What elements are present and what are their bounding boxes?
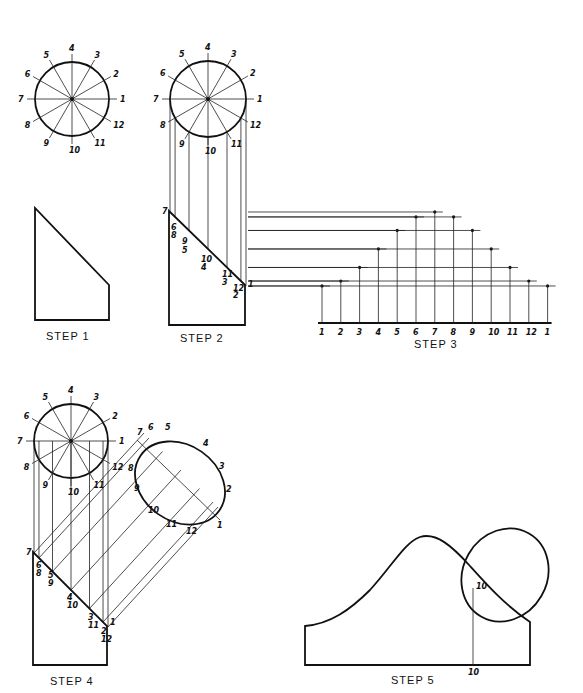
baseline-label-7: 8 xyxy=(451,328,457,337)
baseline-label-9: 10 xyxy=(488,328,500,337)
circle-label-6: 6 xyxy=(24,412,30,421)
circle-label-8: 8 xyxy=(24,463,30,472)
center-point xyxy=(206,97,210,101)
circle-label-1: 1 xyxy=(120,95,126,104)
edge-label-4: 5 xyxy=(182,246,188,255)
radial-line-5 xyxy=(185,59,208,99)
baseline-label-0: 1 xyxy=(319,328,325,337)
circle-label-11: 11 xyxy=(95,139,106,148)
circle-label-5: 5 xyxy=(179,50,185,59)
step5-base-label: 10 xyxy=(468,668,480,677)
circle-label-12: 12 xyxy=(113,121,125,130)
circle-label-10: 10 xyxy=(69,146,81,155)
center-point xyxy=(70,97,74,101)
oblique-projector-11 xyxy=(90,489,200,609)
baseline-label-2: 3 xyxy=(357,328,363,337)
radial-line-2 xyxy=(72,77,111,100)
ellipse-label-3: 4 xyxy=(202,439,209,448)
radial-line-11 xyxy=(72,99,95,138)
radial-line-3 xyxy=(72,60,95,99)
step1-group: 123456789101112 STEP 1 xyxy=(18,44,126,342)
oblique-projector-8 xyxy=(39,438,149,558)
baseline-label-3: 4 xyxy=(374,328,381,337)
radial-line-5 xyxy=(50,60,73,99)
circle-label-3: 3 xyxy=(94,393,100,402)
edge-label-0: 7 xyxy=(162,207,168,216)
radial-line-8 xyxy=(168,99,208,122)
circle-label-12: 12 xyxy=(250,121,262,130)
edge-label-8: 3 xyxy=(222,278,228,287)
edge-label-8: 11 xyxy=(88,621,99,630)
step2-label: STEP 2 xyxy=(180,332,224,344)
circle-label-6: 6 xyxy=(25,70,31,79)
radial-line-12 xyxy=(72,99,111,122)
radial-line-6 xyxy=(168,76,208,99)
radial-line-9 xyxy=(50,99,73,138)
circle-label-5: 5 xyxy=(44,51,50,60)
circle-label-10: 10 xyxy=(68,488,80,497)
step4-group: 123456789101112 765432112111098 76859410… xyxy=(17,386,241,687)
edge-label-6: 10 xyxy=(67,601,79,610)
radial-line-12 xyxy=(71,441,110,464)
edge-label-4: 9 xyxy=(48,579,54,588)
oblique-projector-12 xyxy=(103,502,213,622)
step3-group: 1234567891011121 STEP 3 xyxy=(248,210,556,350)
baseline-label-10: 11 xyxy=(507,328,518,337)
circle-label-2: 2 xyxy=(113,70,119,79)
ellipse-label-10: 9 xyxy=(134,484,140,493)
radial-line-9 xyxy=(185,99,208,139)
step3-label: STEP 3 xyxy=(414,338,458,350)
baseline-label-8: 9 xyxy=(469,328,475,337)
circle-label-4: 4 xyxy=(67,386,74,395)
step5-point-label: 10 xyxy=(476,582,488,591)
oblique-projector-10 xyxy=(71,470,181,590)
step2-prism-outline xyxy=(169,211,245,325)
edge-label-0: 7 xyxy=(26,548,32,557)
baseline-label-6: 7 xyxy=(432,328,438,337)
radial-line-11 xyxy=(71,441,94,480)
circle-label-2: 2 xyxy=(250,69,256,78)
circle-label-3: 3 xyxy=(231,50,237,59)
step5-development-outline xyxy=(305,536,530,665)
circle-label-2: 2 xyxy=(112,412,118,421)
step5-ellipse xyxy=(445,512,566,637)
circle-label-9: 9 xyxy=(43,481,49,490)
edge-label-2: 8 xyxy=(171,231,177,240)
radial-line-2 xyxy=(71,419,110,442)
baseline-label-11: 12 xyxy=(526,328,538,337)
circle-label-8: 8 xyxy=(25,121,31,130)
step2-group: 123456789101112 768951041131221 STEP 2 xyxy=(153,43,263,344)
ellipse-label-8: 11 xyxy=(166,520,177,529)
step1-label: STEP 1 xyxy=(46,330,90,342)
ellipse-label-11: 8 xyxy=(128,464,134,473)
edge-label-6: 4 xyxy=(200,263,207,272)
radial-line-2 xyxy=(208,76,248,99)
radial-line-5 xyxy=(49,402,72,441)
step5-label: STEP 5 xyxy=(391,674,435,686)
circle-label-5: 5 xyxy=(43,393,49,402)
radial-line-3 xyxy=(208,59,231,99)
oblique-projector-1 xyxy=(108,507,218,627)
circle-label-8: 8 xyxy=(160,121,166,130)
edge-label-3: 9 xyxy=(182,237,188,246)
circle-label-11: 11 xyxy=(231,140,242,149)
oblique-projector-9 xyxy=(53,452,163,572)
edge-label-2: 8 xyxy=(36,569,42,578)
baseline-label-1: 2 xyxy=(338,328,344,337)
radial-line-11 xyxy=(208,99,231,139)
edge-label-11: 1 xyxy=(110,618,116,627)
step3-development: 1234567891011121 xyxy=(248,210,556,337)
radial-line-9 xyxy=(49,441,72,480)
ellipse-label-5: 2 xyxy=(226,485,232,494)
radial-line-8 xyxy=(33,99,72,122)
circle-label-1: 1 xyxy=(119,437,125,446)
baseline-label-4: 5 xyxy=(394,328,400,337)
step1-prism-outline xyxy=(35,208,109,320)
baseline-label-5: 6 xyxy=(413,328,419,337)
radial-line-6 xyxy=(33,77,72,100)
edge-label-10: 12 xyxy=(101,635,113,644)
radial-line-6 xyxy=(32,419,71,442)
circle-label-4: 4 xyxy=(68,44,75,53)
ellipse-label-4: 3 xyxy=(219,462,225,471)
circle-label-1: 1 xyxy=(257,95,263,104)
